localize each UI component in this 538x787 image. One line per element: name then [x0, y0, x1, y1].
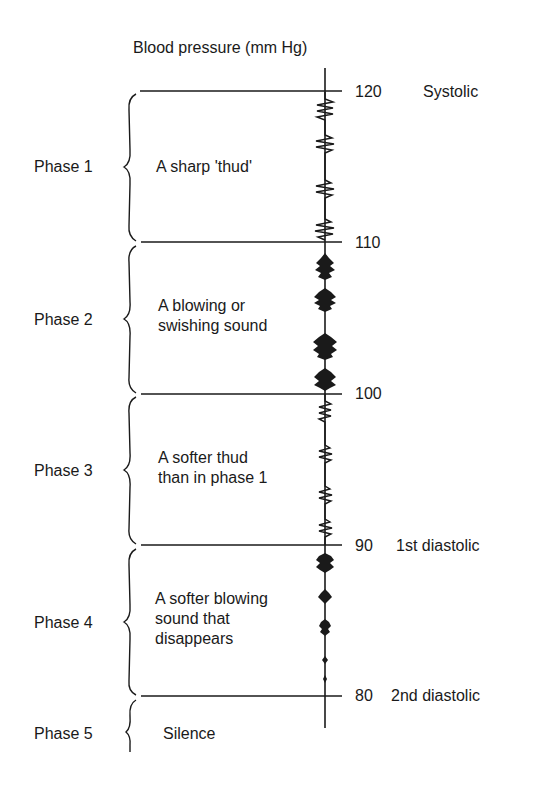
korotkoff-diagram — [0, 0, 538, 787]
phase-5-description: Silence — [163, 724, 215, 744]
brace-phase-2 — [124, 246, 136, 393]
phase-2-label: Phase 2 — [34, 310, 93, 330]
phase-5-label: Phase 5 — [34, 724, 93, 744]
tick-110: 110 — [355, 233, 381, 253]
phase-3-description: A softer thud than in phase 1 — [158, 448, 267, 488]
brace-phase-1 — [124, 94, 136, 241]
brace-phase-5 — [126, 700, 136, 752]
tick-120: 120 — [355, 82, 382, 102]
annotation-2nd-diastolic: 2nd diastolic — [391, 686, 480, 706]
phase-4-label: Phase 4 — [34, 613, 93, 633]
brace-phase-4 — [124, 549, 136, 695]
tick-80: 80 — [355, 686, 373, 706]
phase-braces — [124, 94, 136, 752]
phase-2-description: A blowing or swishing sound — [158, 296, 267, 336]
annotation-systolic: Systolic — [423, 82, 478, 102]
phase-1-description: A sharp 'thud' — [156, 157, 252, 177]
annotation-1st-diastolic: 1st diastolic — [396, 536, 480, 556]
tick-100: 100 — [355, 384, 382, 404]
phase-1-label: Phase 1 — [34, 157, 93, 177]
tick-90: 90 — [355, 536, 373, 556]
brace-phase-3 — [124, 397, 136, 544]
phase-4-description: A softer blowing sound that disappears — [155, 589, 268, 649]
phase-3-label: Phase 3 — [34, 461, 93, 481]
axis-title: Blood pressure (mm Hg) — [133, 38, 307, 58]
